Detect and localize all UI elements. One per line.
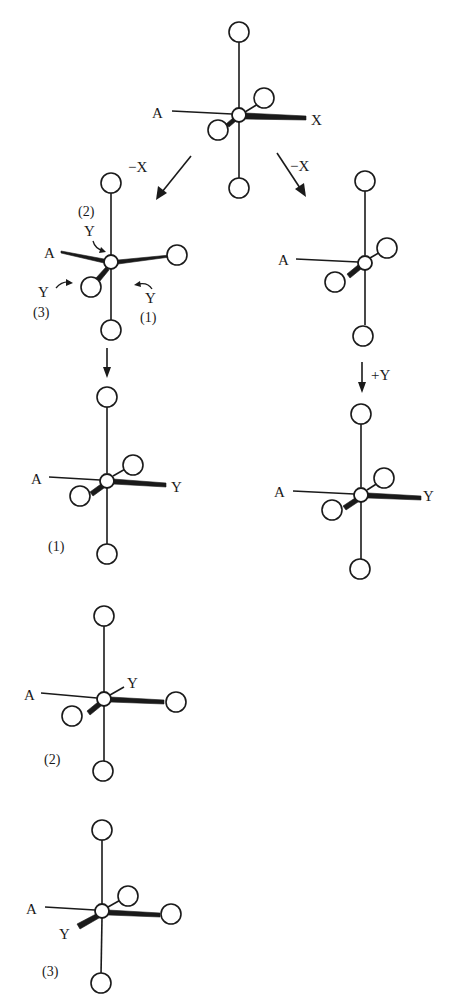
ligand-atom-top bbox=[351, 404, 371, 424]
label-Y: Y bbox=[127, 675, 138, 691]
ligand-atom-bottom bbox=[91, 973, 111, 993]
ligand-atom-bottom bbox=[97, 544, 117, 564]
bond-to-Y bbox=[368, 493, 421, 500]
caption-3: (3) bbox=[42, 964, 59, 980]
label-A: A bbox=[31, 471, 42, 487]
ligand-atom-back bbox=[118, 886, 138, 906]
ligand-atom-front bbox=[70, 486, 90, 506]
arrow-right-label: −X bbox=[290, 158, 309, 174]
entry-ligand-1: Y bbox=[145, 290, 156, 306]
ligand-atom-front bbox=[322, 500, 342, 520]
ligand-atom-front bbox=[325, 272, 345, 292]
left-intermediate: A (2) Y Y (3) Y (1) bbox=[33, 173, 187, 340]
right-intermediate: A bbox=[278, 171, 397, 346]
ligand-atom-bottom bbox=[350, 559, 370, 579]
metal-center bbox=[95, 904, 109, 918]
bond-to-X bbox=[245, 113, 306, 120]
entry-number-2: (2) bbox=[78, 204, 95, 220]
metal-center bbox=[232, 108, 246, 122]
label-Y: Y bbox=[171, 479, 182, 495]
octahedral-substitution-diagram: A X −X −X A (2) Y Y (3) Y bbox=[0, 0, 449, 1003]
label-X: X bbox=[311, 112, 322, 128]
bond-to-Y bbox=[77, 914, 99, 929]
ligand-atom-front bbox=[208, 120, 228, 140]
label-A: A bbox=[44, 245, 55, 261]
ligand-atom-top bbox=[92, 820, 112, 840]
product-3: A Y (3) bbox=[26, 820, 181, 993]
ligand-atom-back bbox=[377, 238, 397, 258]
ligand-atom-front bbox=[62, 706, 82, 726]
product-1: A Y (1) bbox=[31, 387, 182, 564]
metal-center bbox=[104, 255, 118, 269]
ligand-atom-bottom bbox=[93, 761, 113, 781]
arrow-right-loss: −X bbox=[277, 153, 309, 197]
entry-number-3: (3) bbox=[33, 305, 50, 321]
metal-center bbox=[100, 474, 114, 488]
entry-number-1: (1) bbox=[140, 310, 157, 326]
entry-ligand-3: Y bbox=[38, 284, 49, 300]
ligand-atom-top bbox=[355, 171, 375, 191]
metal-center bbox=[354, 488, 368, 502]
label-A: A bbox=[278, 252, 289, 268]
arrow-right-entry-label: +Y bbox=[371, 367, 390, 383]
label-A: A bbox=[24, 687, 35, 703]
label-Y: Y bbox=[59, 926, 70, 942]
caption-1: (1) bbox=[48, 539, 65, 555]
metal-center bbox=[97, 692, 111, 706]
ligand-atom-bottom bbox=[353, 326, 373, 346]
metal-center bbox=[358, 256, 372, 270]
ligand-atom-back bbox=[123, 455, 143, 475]
label-A: A bbox=[274, 484, 285, 500]
product-right: A Y bbox=[274, 404, 434, 579]
arrow-left-label: −X bbox=[128, 159, 147, 175]
ligand-atom-right bbox=[161, 904, 181, 924]
label-A: A bbox=[26, 901, 37, 917]
bond-to-Y bbox=[113, 479, 166, 487]
ligand-atom-top bbox=[229, 22, 249, 42]
ligand-atom-back bbox=[374, 468, 394, 488]
ligand-atom-top bbox=[94, 606, 114, 626]
arrow-left-down bbox=[103, 348, 111, 378]
ligand-atom-right bbox=[166, 692, 186, 712]
ligand-atom-back bbox=[254, 88, 274, 108]
bond-to-A bbox=[61, 251, 104, 263]
ligand-atom-front bbox=[81, 277, 101, 297]
arrow-right-entry: +Y bbox=[358, 362, 390, 393]
caption-2: (2) bbox=[44, 752, 61, 768]
ligand-atom-top bbox=[101, 173, 121, 193]
label-Y: Y bbox=[423, 488, 434, 504]
ligand-atom-right bbox=[167, 245, 187, 265]
arrow-left-loss: −X bbox=[128, 156, 191, 200]
ligand-atom-top bbox=[97, 387, 117, 407]
label-A: A bbox=[152, 105, 163, 121]
ligand-atom-bottom bbox=[101, 320, 121, 340]
ligand-atom-bottom bbox=[229, 178, 249, 198]
entry-ligand-2: Y bbox=[84, 223, 95, 239]
product-2: A Y (2) bbox=[24, 606, 186, 781]
